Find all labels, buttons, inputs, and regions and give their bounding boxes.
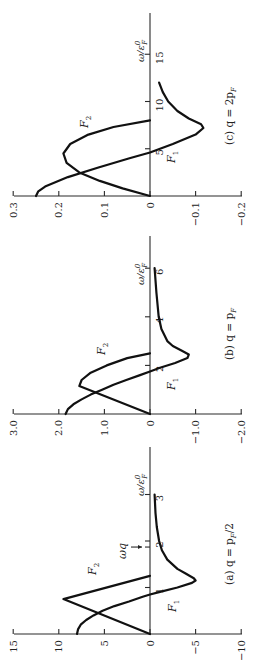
curve-label-f1: F1 bbox=[165, 378, 180, 391]
value-tick-label: −2.0 bbox=[236, 420, 247, 444]
value-tick-label: 0 bbox=[145, 202, 156, 208]
panel-caption: (b) q = pF bbox=[223, 307, 238, 360]
value-tick-label: 2.0 bbox=[53, 420, 64, 436]
value-tick-label: 10 bbox=[53, 640, 64, 653]
omega-tick-label: 15 bbox=[154, 51, 165, 64]
curve-f2 bbox=[63, 120, 150, 196]
panel-caption: (c) q = 2pF bbox=[223, 86, 238, 145]
value-tick-label: 0.1 bbox=[99, 202, 110, 218]
value-tick-label: 0.2 bbox=[53, 202, 64, 218]
value-tick-label: 1.0 bbox=[99, 420, 110, 436]
panel-c-chart: 0.30.20.10−0.1−0.251015ω/ε0FF2F1(c) q = … bbox=[8, 13, 247, 226]
curve-label-f1: F1 bbox=[166, 600, 181, 613]
value-tick-label: −0.1 bbox=[190, 202, 201, 226]
curve-label-f2: F2 bbox=[95, 343, 110, 356]
value-tick-label: 5 bbox=[99, 640, 110, 646]
value-tick-label: −10 bbox=[236, 640, 247, 661]
value-tick-label: −0.2 bbox=[236, 202, 247, 226]
curve-f2 bbox=[63, 576, 150, 634]
omega-axis-title: ω/ε0F bbox=[134, 39, 149, 62]
curve-f1 bbox=[36, 83, 203, 196]
curve-f1 bbox=[66, 268, 189, 414]
omega-q-label: ωq bbox=[116, 543, 129, 559]
curve-label-f1: F1 bbox=[165, 151, 180, 164]
value-tick-label: 15 bbox=[8, 640, 19, 653]
panel-a-chart: 151050−5−10123ω/ε0FF2F1(a) q = pF/2ωq bbox=[8, 447, 247, 661]
omega-tick-label: 10 bbox=[154, 99, 165, 112]
figure-canvas: 0.30.20.10−0.1−0.251015ω/ε0FF2F1(c) q = … bbox=[0, 0, 260, 664]
value-tick-label: −5 bbox=[190, 640, 201, 655]
panel-caption: (a) q = pF/2 bbox=[223, 523, 238, 585]
value-tick-label: 0.3 bbox=[8, 202, 19, 218]
value-tick-label: 3.0 bbox=[8, 420, 19, 436]
value-tick-label: 0 bbox=[145, 640, 156, 646]
curve-label-f2: F2 bbox=[86, 563, 101, 576]
value-tick-label: −1.0 bbox=[190, 420, 201, 444]
omega-axis-title: ω/ε0F bbox=[134, 473, 149, 496]
value-tick-label: 0 bbox=[145, 420, 156, 426]
curve-label-f2: F2 bbox=[78, 116, 93, 129]
arrowhead-icon bbox=[138, 545, 142, 549]
panel-b-chart: 3.02.01.00−1.0−2.0246ω/ε0FF2F1(b) q = pF bbox=[8, 236, 247, 444]
omega-axis-title: ω/ε0F bbox=[134, 262, 149, 285]
